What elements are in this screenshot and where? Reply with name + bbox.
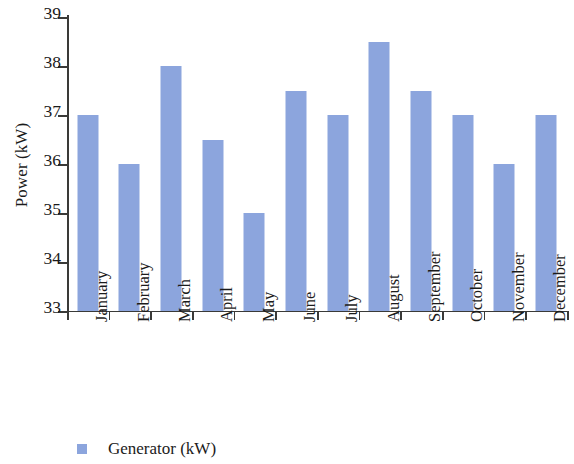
bar-slot [359,17,401,311]
bar-slot [275,17,317,311]
legend-swatch-icon [77,444,87,454]
y-tick-label: 39 [44,5,62,23]
bar-slot [442,17,484,311]
y-tick-label: 35 [44,201,62,219]
bar-slot [192,17,234,311]
y-tick-label: 36 [44,152,62,170]
bar-chart-figure: Power (kW) 33343536373839 JanuaryFebruar… [0,0,574,464]
y-axis-title: Power (kW) [12,95,32,235]
bar [286,91,307,312]
bar [161,66,182,311]
y-tick-label: 33 [44,299,62,317]
bar-slot [234,17,276,311]
y-tick-label: 34 [44,250,62,268]
y-tick-label: 37 [44,103,62,121]
bar-slot [67,17,109,311]
bar [327,115,348,311]
x-axis-labels: JanuaryFebruaryMarchAprilMayJuneJulyAugu… [67,322,567,422]
chart-legend: Generator (kW) [77,440,216,457]
bar-slot [150,17,192,311]
x-tick-mark [67,311,69,320]
bar-slot [317,17,359,311]
bar [369,42,390,312]
legend-label-generator: Generator (kW) [108,440,216,457]
bar [202,140,223,312]
y-tick-label: 38 [44,54,62,72]
